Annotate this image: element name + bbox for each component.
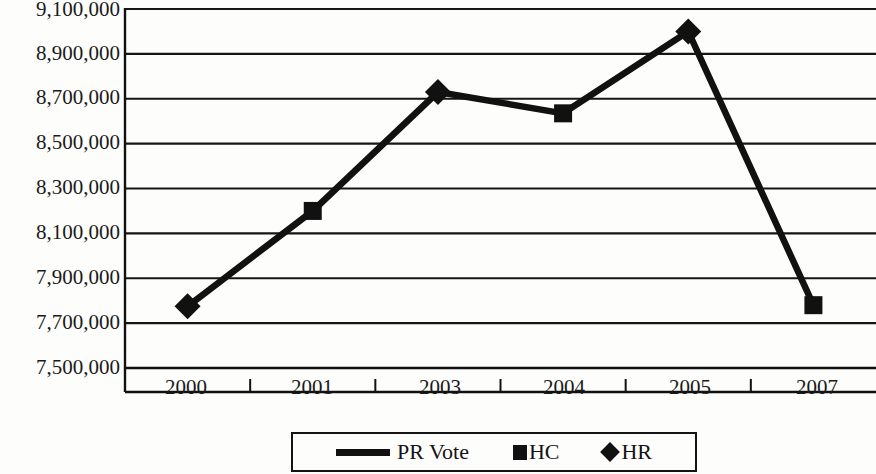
plot-area [0,0,876,400]
chart-legend: PR Vote HC HR [291,432,697,472]
legend-entry-pr-vote: PR Vote [336,441,469,463]
line-swatch-icon [336,449,390,456]
legend-label: HR [621,441,652,463]
legend-label: PR Vote [397,441,469,463]
x-axis-tick-label: 2003 [419,377,461,398]
line-chart: 9,100,000 8,900,000 8,700,000 8,500,000 … [0,0,876,474]
x-axis-tick-label: 2001 [291,377,333,398]
legend-entry-hc: HC [513,441,560,463]
legend-entry-hr: HR [603,441,652,463]
legend-label: HC [529,441,560,463]
x-axis-tick-label: 2007 [796,377,838,398]
x-axis-tick-label: 2000 [165,377,207,398]
gridlines [125,9,876,323]
x-axis-tick-label: 2005 [669,377,711,398]
series-markers [175,18,823,319]
x-axis-tick-label: 2004 [543,377,585,398]
series-line-pr-vote [188,31,814,306]
square-marker-icon [513,445,527,460]
diamond-marker-icon [601,442,621,462]
